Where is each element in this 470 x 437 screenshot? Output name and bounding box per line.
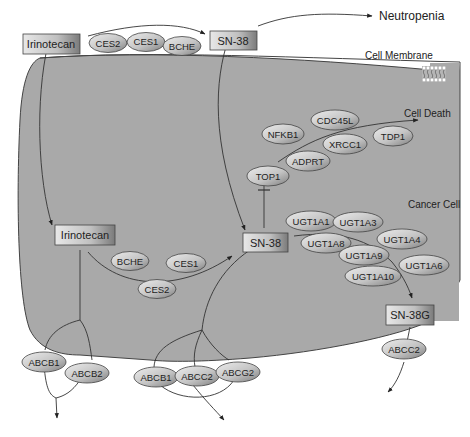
enzyme-bche-inside[interactable]: BCHE xyxy=(111,252,149,271)
sn38g-box[interactable]: SN-38G xyxy=(386,305,434,325)
node-label: ABCG2 xyxy=(222,367,254,378)
node-xrcc1[interactable]: XRCC1 xyxy=(323,134,367,154)
node-cdc45l[interactable]: CDC45L xyxy=(311,110,359,130)
transporter-abcb1-center[interactable]: ABCB1 xyxy=(134,367,178,387)
irinotecan-outside-box[interactable]: Irinotecan xyxy=(23,34,80,54)
enzyme-label: BCHE xyxy=(169,41,195,52)
node-label: CDC45L xyxy=(317,115,353,126)
node-ugt1a9[interactable]: UGT1A9 xyxy=(339,245,389,265)
node-ugt1a4[interactable]: UGT1A4 xyxy=(377,229,427,249)
node-ugt1a10[interactable]: UGT1A10 xyxy=(345,266,401,286)
node-ugt1a3[interactable]: UGT1A3 xyxy=(333,212,383,232)
transporter-abcc2-center[interactable]: ABCC2 xyxy=(175,366,219,386)
cancer-cell-label: Cancer Cell xyxy=(408,199,460,210)
enzyme-ces1-inside[interactable]: CES1 xyxy=(166,254,206,273)
transporter-abcc2-right[interactable]: ABCC2 xyxy=(382,339,426,359)
enzyme-label: BCHE xyxy=(117,256,143,267)
irinotecan-inside-label: Irinotecan xyxy=(61,229,109,241)
transporter-abcb1-left[interactable]: ABCB1 xyxy=(22,352,66,372)
node-label: ABCC2 xyxy=(181,371,213,382)
node-label: UGT1A4 xyxy=(384,234,421,245)
node-label: UGT1A9 xyxy=(346,250,383,261)
irinotecan-inside-box[interactable]: Irinotecan xyxy=(55,225,115,245)
node-adprt[interactable]: ADPRT xyxy=(286,151,330,171)
pathway-diagram: Irinotecan SN-38 CES2 CES1 BCHE Neutrope… xyxy=(0,0,470,437)
neutropenia-label: Neutropenia xyxy=(379,9,445,23)
node-label: NFKB1 xyxy=(268,129,299,140)
enzyme-ces2-inside[interactable]: CES2 xyxy=(138,280,176,299)
enzyme-bche-outside[interactable]: BCHE xyxy=(163,37,201,56)
sn38-inside-box[interactable]: SN-38 xyxy=(243,233,288,252)
node-nfkb1[interactable]: NFKB1 xyxy=(262,124,304,144)
enzyme-label: CES1 xyxy=(134,36,159,47)
node-label: ABCB1 xyxy=(140,372,171,383)
enzyme-label: CES2 xyxy=(145,284,170,295)
node-label: UGT1A10 xyxy=(352,271,394,282)
node-ugt1a1[interactable]: UGT1A1 xyxy=(286,211,336,231)
sn38g-label: SN-38G xyxy=(390,309,430,321)
transporter-abcg2[interactable]: ABCG2 xyxy=(216,362,260,382)
node-ugt1a6[interactable]: UGT1A6 xyxy=(399,255,449,275)
transporter-abcb2[interactable]: ABCB2 xyxy=(65,363,109,383)
irinotecan-outside-label: Irinotecan xyxy=(27,38,75,50)
sn38-outside-label: SN-38 xyxy=(217,35,248,47)
node-label: TDP1 xyxy=(381,131,405,142)
node-label: UGT1A1 xyxy=(293,216,330,227)
node-label: ABCB1 xyxy=(28,357,59,368)
node-label: UGT1A8 xyxy=(308,238,345,249)
node-label: ABCB2 xyxy=(71,368,102,379)
enzyme-label: CES1 xyxy=(174,258,199,269)
node-label: ABCC2 xyxy=(388,344,420,355)
node-label: TOP1 xyxy=(256,171,281,182)
node-label: UGT1A6 xyxy=(406,260,443,271)
enzyme-ces1-outside[interactable]: CES1 xyxy=(127,33,165,52)
node-label: ADPRT xyxy=(292,156,324,167)
enzyme-ces2-outside[interactable]: CES2 xyxy=(89,34,127,53)
node-label: XRCC1 xyxy=(329,139,361,150)
cell-membrane-label: Cell Membrane xyxy=(365,50,433,61)
sn38-inside-label: SN-38 xyxy=(250,237,281,249)
node-top1[interactable]: TOP1 xyxy=(247,166,289,186)
enzyme-label: CES2 xyxy=(96,38,121,49)
sn38-outside-box[interactable]: SN-38 xyxy=(210,31,257,50)
cell-death-label: Cell Death xyxy=(404,108,451,119)
node-label: UGT1A3 xyxy=(340,217,377,228)
membrane-channel-icon xyxy=(422,66,446,82)
node-tdp1[interactable]: TDP1 xyxy=(373,126,413,146)
